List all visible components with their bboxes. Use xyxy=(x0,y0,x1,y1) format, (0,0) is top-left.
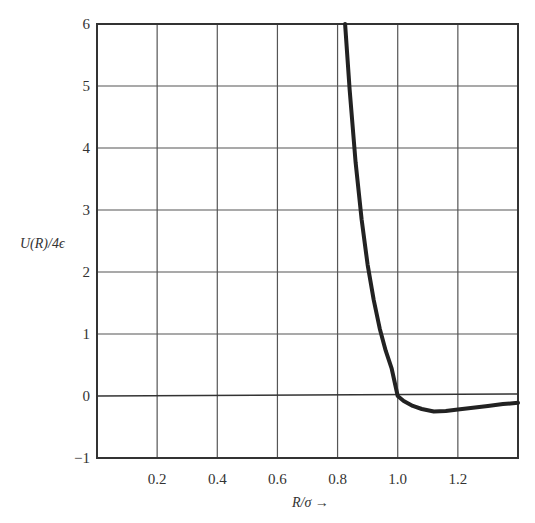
y-tick-label: 0 xyxy=(83,388,91,404)
x-tick-labels: 0.20.40.60.81.01.2 xyxy=(148,471,467,487)
y-tick-label: 2 xyxy=(83,264,91,280)
x-tick-label: 0.6 xyxy=(268,471,287,487)
y-tick-labels: −10123456 xyxy=(74,16,90,466)
y-tick-label: 6 xyxy=(83,16,91,32)
zero-axis-line xyxy=(97,394,518,396)
y-tick-label: −1 xyxy=(74,450,90,466)
x-tick-label: 1.0 xyxy=(388,471,407,487)
x-tick-label: 0.4 xyxy=(208,471,227,487)
potential-curve xyxy=(345,24,518,412)
y-tick-label: 5 xyxy=(83,78,91,94)
y-tick-label: 3 xyxy=(83,202,91,218)
x-axis-label: R/σ → xyxy=(291,495,329,510)
plot-frame xyxy=(97,24,518,458)
x-tick-label: 0.8 xyxy=(328,471,347,487)
y-tick-label: 4 xyxy=(83,140,91,156)
grid-lines xyxy=(97,24,518,458)
x-tick-label: 0.2 xyxy=(148,471,167,487)
y-tick-label: 1 xyxy=(83,326,91,342)
lennard-jones-chart: 0.20.40.60.81.01.2 −10123456 U(R)/4ϵ R/σ… xyxy=(0,0,535,523)
y-axis-label: U(R)/4ϵ xyxy=(20,236,66,252)
x-tick-label: 1.2 xyxy=(448,471,467,487)
